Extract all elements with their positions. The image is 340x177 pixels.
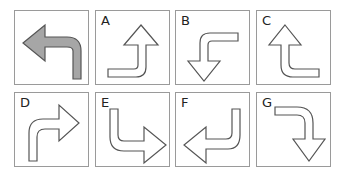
option-f[interactable]: F [175, 92, 250, 167]
option-d[interactable]: D [14, 92, 89, 167]
turn-down-arrow-icon [257, 93, 330, 166]
turn-right-arrow-icon [15, 93, 88, 166]
option-c[interactable]: C [256, 10, 331, 85]
turn-right-arrow-icon [96, 93, 169, 166]
question-box [14, 10, 89, 85]
turn-left-arrow-icon [15, 11, 88, 84]
option-g[interactable]: G [256, 92, 331, 167]
option-e[interactable]: E [95, 92, 170, 167]
option-b[interactable]: B [175, 10, 250, 85]
option-a[interactable]: A [95, 10, 170, 85]
turn-left-arrow-icon [176, 93, 249, 166]
turn-up-arrow-icon [96, 11, 169, 84]
turn-down-arrow-icon [176, 11, 249, 84]
turn-up-arrow-icon [257, 11, 330, 84]
